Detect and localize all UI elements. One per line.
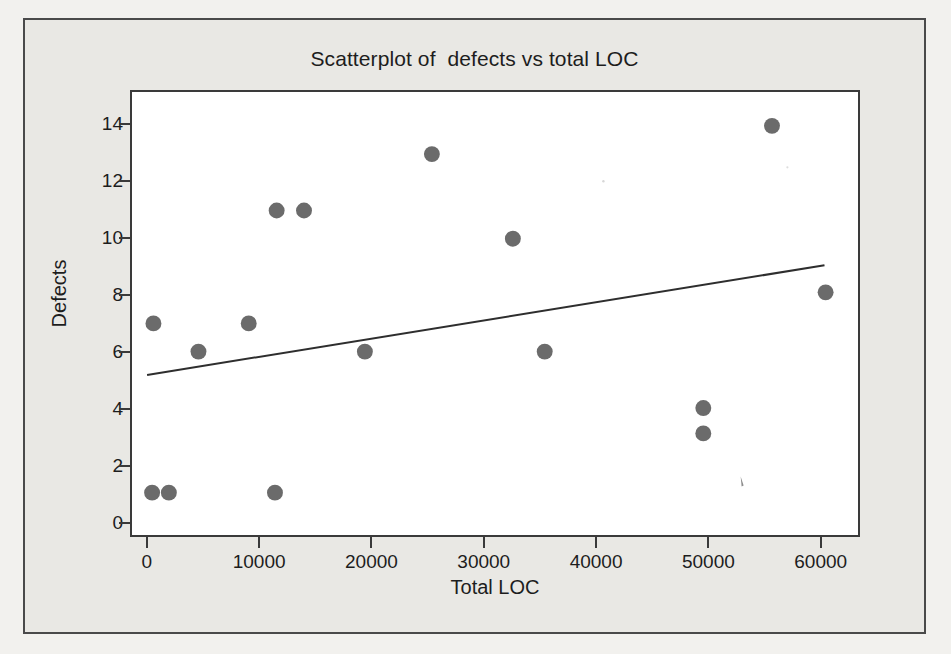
scatter-point: [764, 118, 780, 134]
chart-title: Scatterplot of defects vs total LOC: [25, 47, 924, 71]
y-tick-mark-8: [119, 294, 130, 296]
scatter-point: [241, 315, 257, 331]
plot-panel: [130, 90, 860, 537]
y-tick-mark-6: [119, 351, 130, 353]
scatter-point: [818, 284, 834, 300]
x-axis-title: Total LOC: [130, 576, 860, 599]
scatter-point: [269, 203, 285, 219]
x-tick-label-50000: 50000: [682, 551, 735, 573]
scan-artifacts: [602, 166, 788, 486]
scatter-point: [695, 400, 711, 416]
x-tick-mark-10000: [258, 537, 260, 548]
scatter-point: [267, 485, 283, 501]
y-tick-mark-14: [119, 123, 130, 125]
x-tick-mark-30000: [483, 537, 485, 548]
x-tick-label-10000: 10000: [233, 551, 286, 573]
x-tick-mark-20000: [370, 537, 372, 548]
y-tick-mark-10: [119, 237, 130, 239]
y-tick-mark-12: [119, 180, 130, 182]
scatter-point: [505, 231, 521, 247]
scatter-point: [191, 344, 207, 360]
plot-canvas: [132, 92, 858, 535]
scatter-point: [357, 344, 373, 360]
scatter-point: [537, 344, 553, 360]
scatter-point: [145, 315, 161, 331]
x-tick-mark-50000: [707, 537, 709, 548]
x-tick-mark-60000: [820, 537, 822, 548]
x-tick-label-30000: 30000: [457, 551, 510, 573]
scatter-point: [424, 146, 440, 162]
figure-frame: Scatterplot of defects vs total LOC Defe…: [23, 18, 926, 634]
figure-background: Scatterplot of defects vs total LOC Defe…: [25, 20, 924, 632]
y-tick-mark-4: [119, 408, 130, 410]
y-axis-tick-labels: 02468101214: [65, 90, 123, 537]
scatter-point: [296, 203, 312, 219]
scatter-point: [144, 485, 160, 501]
y-axis-tick-marks: [119, 90, 130, 537]
x-tick-label-0: 0: [142, 551, 153, 573]
x-tick-mark-0: [146, 537, 148, 548]
screenshot-page: Scatterplot of defects vs total LOC Defe…: [0, 0, 951, 654]
scatter-points: [144, 118, 833, 501]
y-tick-mark-2: [119, 465, 130, 467]
x-tick-label-60000: 60000: [794, 551, 847, 573]
y-tick-mark-0: [119, 522, 130, 524]
scatter-point: [161, 485, 177, 501]
x-tick-label-20000: 20000: [345, 551, 398, 573]
scatter-point: [695, 425, 711, 441]
x-tick-mark-40000: [595, 537, 597, 548]
x-tick-label-40000: 40000: [570, 551, 623, 573]
